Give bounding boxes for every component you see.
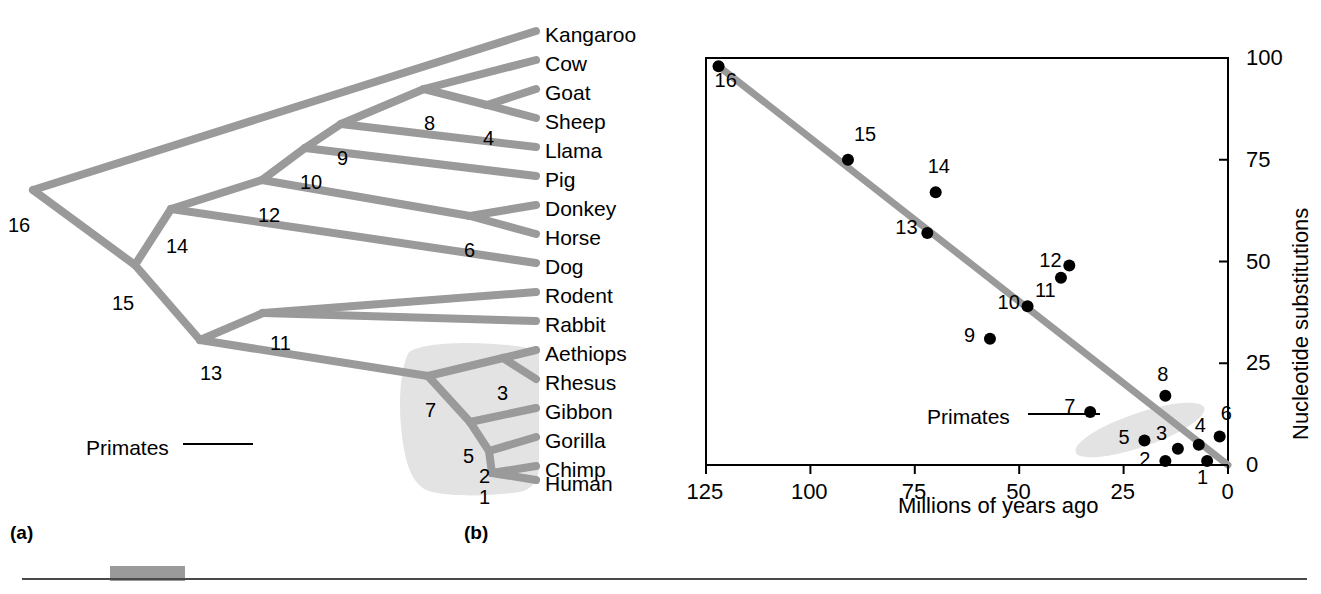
chart-point-label-6: 6 [1221,403,1232,423]
chart-point-label-14: 14 [928,156,950,176]
x-tick-label-25: 25 [1111,481,1135,503]
chart-point-label-15: 15 [854,124,876,144]
panel-b-label: (b) [464,523,488,542]
y-tick-label-50: 50 [1246,251,1270,273]
chart-point-label-13: 13 [895,217,917,237]
chart-data-point-2 [1159,455,1171,467]
x-tick-label-100: 100 [791,481,828,503]
x-tick-label-125: 125 [687,481,724,503]
y-tick-label-100: 100 [1246,47,1283,69]
chart-point-label-8: 8 [1157,364,1168,384]
chart-point-label-2: 2 [1139,449,1150,469]
chart-point-label-5: 5 [1118,427,1129,447]
figure-root: KangarooCowGoatSheepLlamaPigDonkeyHorseD… [0,0,1321,594]
chart-data-point-15 [842,154,854,166]
chart-data-point-12 [1063,260,1075,272]
x-tick-label-0: 0 [1222,481,1234,503]
chart-data-point-13 [921,227,933,239]
y-tick-label-25: 25 [1246,352,1270,374]
chart-data-point-10 [1022,300,1034,312]
y-tick-label-75: 75 [1246,149,1270,171]
chart-point-label-7: 7 [1064,396,1075,416]
chart-data-point-7 [1084,406,1096,418]
panel-a-label: (a) [10,523,33,542]
chart-data-point-4 [1193,439,1205,451]
chart-data-point-3 [1172,443,1184,455]
chart-point-label-16: 16 [715,70,737,90]
chart-data-point-14 [930,186,942,198]
chart-point-label-10: 10 [998,292,1020,312]
chart-data-point-6 [1214,431,1226,443]
chart-point-label-3: 3 [1156,423,1167,443]
y-axis-title: Nucleotide substitutions [1290,208,1312,440]
footer-divider [22,578,1307,580]
x-axis-title: Millions of years ago [898,495,1099,517]
chart-point-label-4: 4 [1195,415,1206,435]
chart-point-label-9: 9 [964,325,975,345]
chart-data-point-8 [1159,390,1171,402]
chart-data-point-9 [984,333,996,345]
chart-point-label-11: 11 [1035,280,1056,300]
chart-point-label-1: 1 [1197,467,1208,487]
chart-data-point-11 [1055,272,1067,284]
chart-data-point-5 [1138,435,1150,447]
chart-point-label-12: 12 [1039,250,1061,270]
y-tick-label-0: 0 [1246,454,1258,476]
chart-primates-annotation: Primates [927,406,1010,427]
